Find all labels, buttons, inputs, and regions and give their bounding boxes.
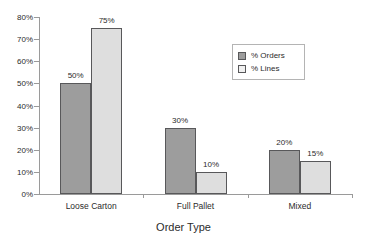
x-axis-line <box>39 194 353 195</box>
legend-label-lines: % Lines <box>251 65 279 73</box>
bar <box>165 128 196 194</box>
light-gray-swatch-icon <box>238 65 246 73</box>
y-axis-tick-label: 20% <box>17 145 33 154</box>
bar <box>300 161 331 194</box>
bar-value-label: 75% <box>99 16 115 25</box>
category-label: Mixed <box>288 201 311 211</box>
x-axis-tick <box>352 194 353 198</box>
y-axis-tick-label: 50% <box>17 79 33 88</box>
bar-chart: 0%10%20%30%40%50%60%70%80% 50%75%30%10%2… <box>0 0 367 243</box>
y-axis-tick-label: 80% <box>17 13 33 22</box>
legend: % Orders % Lines <box>232 44 305 80</box>
legend-label-orders: % Orders <box>251 52 285 60</box>
y-axis-tick-label: 30% <box>17 123 33 132</box>
y-axis-tick-label: 60% <box>17 57 33 66</box>
category-label: Loose Carton <box>66 201 117 211</box>
dark-gray-swatch-icon <box>238 52 246 60</box>
bar-value-label: 20% <box>276 138 292 147</box>
bar-value-label: 15% <box>307 149 323 158</box>
x-axis-tick <box>143 194 144 198</box>
y-axis-tick-label: 0% <box>21 190 33 199</box>
x-axis-title: Order Type <box>0 221 367 233</box>
y-axis-tick-label: 70% <box>17 35 33 44</box>
bar <box>269 150 300 194</box>
category-label: Full Pallet <box>177 201 214 211</box>
y-axis-tick-label: 10% <box>17 167 33 176</box>
plot-area <box>39 17 352 194</box>
bar <box>196 172 227 194</box>
bar-value-label: 10% <box>203 160 219 169</box>
bar <box>60 83 91 194</box>
legend-item-lines: % Lines <box>238 62 299 75</box>
bar <box>91 28 122 194</box>
x-axis-tick <box>248 194 249 198</box>
bar-value-label: 50% <box>68 71 84 80</box>
y-axis-tick-label: 40% <box>17 101 33 110</box>
legend-item-orders: % Orders <box>238 49 299 62</box>
bar-value-label: 30% <box>172 116 188 125</box>
